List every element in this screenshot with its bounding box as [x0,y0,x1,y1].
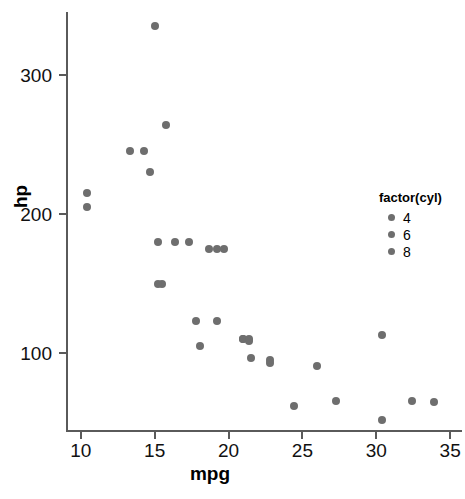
data-point [408,397,416,405]
data-point [154,280,162,288]
x-axis-title: mpg [0,463,420,485]
data-point [290,402,298,410]
x-tick-mark [301,432,303,439]
legend-key-dot [388,248,395,255]
data-point [185,238,193,246]
data-point [245,337,253,345]
legend-key-dot [388,231,395,238]
data-point [247,354,255,362]
data-point [126,147,134,155]
y-tick-mark [59,74,66,76]
data-point [378,416,386,424]
legend-item[interactable]: 4 [379,209,463,226]
x-tick-mark [449,432,451,439]
data-point [154,238,162,246]
x-tick-label: 10 [51,441,111,460]
data-point [151,22,159,30]
data-point [430,398,438,406]
x-tick-label: 30 [346,441,406,460]
x-tick-label: 35 [420,441,465,460]
legend: factor(cyl) 468 [379,190,463,260]
y-axis-title: hp [10,185,32,208]
legend-item-label: 8 [403,245,411,259]
legend-entries: 468 [379,209,463,260]
scatter-plot: 100200300 101520253035 mpg hp factor(cyl… [0,0,465,499]
x-tick-mark [80,432,82,439]
x-axis-line [66,430,462,432]
x-tick-label: 20 [199,441,259,460]
y-tick-label: 300 [0,66,52,85]
x-tick-mark [375,432,377,439]
legend-item-label: 4 [403,211,411,225]
y-tick-mark [59,352,66,354]
x-tick-label: 15 [125,441,185,460]
data-point [378,331,386,339]
data-point [220,245,228,253]
y-axis-line [66,12,68,432]
data-point [213,317,221,325]
legend-item[interactable]: 8 [379,243,463,260]
y-tick-label: 100 [0,344,52,363]
legend-title: factor(cyl) [379,190,463,205]
legend-item[interactable]: 6 [379,226,463,243]
data-point [83,189,91,197]
legend-key-dot [388,214,395,221]
y-tick-mark [59,213,66,215]
data-point [83,203,91,211]
x-tick-mark [228,432,230,439]
x-tick-label: 25 [272,441,332,460]
x-tick-mark [154,432,156,439]
legend-item-label: 6 [403,228,411,242]
